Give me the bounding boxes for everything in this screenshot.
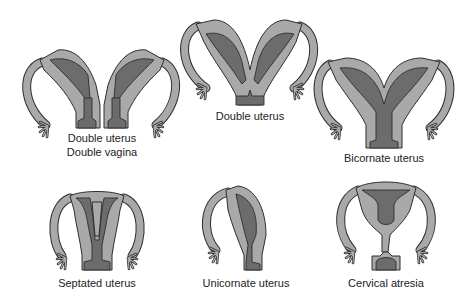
label-double-uterus-double-vagina-line2: Double vagina: [67, 146, 138, 158]
panel-double-uterus: Double uterus: [185, 20, 314, 122]
right-fallopian-tube: [124, 198, 140, 269]
panel-cervical-atresia: Cervical atresia: [341, 182, 432, 289]
right-fallopian-tube: [414, 190, 431, 263]
right-uterus: [104, 50, 164, 128]
uterus-body: [226, 186, 266, 270]
label-double-uterus-double-vagina-line1: Double uterus: [68, 132, 137, 144]
panel-bicornate-uterus: Bicornate uterus: [318, 58, 450, 164]
label-bicornate-uterus: Bicornate uterus: [344, 152, 425, 164]
panel-double-uterus-double-vagina: Double uterus Double vagina: [27, 50, 176, 158]
uterus-body: [196, 20, 302, 105]
label-cervical-atresia: Cervical atresia: [348, 277, 425, 289]
uterus-body: [70, 192, 124, 271]
panel-unicornate-uterus: Unicornate uterus: [203, 186, 290, 289]
left-fallopian-tube: [341, 190, 358, 263]
left-uterus: [40, 50, 100, 128]
fallopian-tube: [206, 192, 228, 263]
label-double-uterus: Double uterus: [216, 110, 285, 122]
left-fallopian-tube: [27, 62, 48, 137]
panel-septated-uterus: Septated uterus: [54, 192, 140, 290]
left-fallopian-tube: [54, 198, 70, 269]
uterine-anomalies-diagram: Double uterus Double vagina Double uteru…: [0, 0, 465, 295]
label-unicornate-uterus: Unicornate uterus: [203, 277, 290, 289]
label-septated-uterus: Septated uterus: [58, 277, 136, 289]
uterus-body: [328, 58, 440, 148]
uterus-body: [356, 182, 416, 270]
